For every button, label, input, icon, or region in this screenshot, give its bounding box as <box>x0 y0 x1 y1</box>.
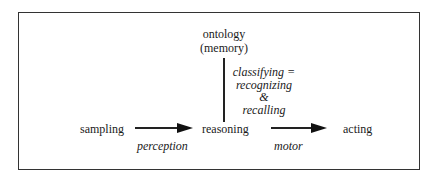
recalling-line: recalling <box>228 104 300 117</box>
classifying-line: classifying = <box>228 66 300 79</box>
edge-label-perception: perception <box>137 140 188 152</box>
edge-label-motor: motor <box>274 140 303 152</box>
vertical-connector-line <box>223 58 225 122</box>
ampersand-line: & <box>228 91 300 104</box>
arrow-right-icon <box>135 122 193 134</box>
node-reasoning: reasoning <box>202 123 249 135</box>
node-ontology-sublabel: (memory) <box>196 42 252 54</box>
node-acting: acting <box>343 123 372 135</box>
node-sampling: sampling <box>80 123 124 135</box>
classifying-label: classifying = recognizing & recalling <box>228 66 300 116</box>
arrow-right-icon <box>271 122 327 134</box>
node-ontology-label: ontology <box>196 28 252 40</box>
node-ontology: ontology (memory) <box>196 28 252 54</box>
